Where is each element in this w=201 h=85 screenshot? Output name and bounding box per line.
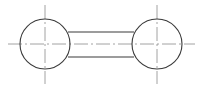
link-drawing bbox=[0, 0, 201, 85]
centerlines bbox=[8, 5, 195, 84]
